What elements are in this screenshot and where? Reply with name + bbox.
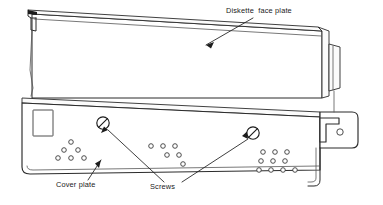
label-diskette-face-plate: Diskette face plate (226, 7, 292, 14)
hole (261, 150, 266, 155)
hole (173, 144, 178, 149)
hole (149, 144, 154, 149)
hole (285, 150, 290, 155)
hole (269, 168, 274, 173)
hole (82, 156, 87, 161)
diskette-face-plate (28, 10, 340, 98)
hole (165, 153, 170, 158)
screw-right (247, 127, 259, 139)
diagram-canvas: Diskette face plate Cover plate Screws (0, 0, 383, 205)
hole (293, 168, 298, 173)
hole (177, 153, 182, 158)
screw-left (97, 117, 109, 129)
right-bracket-hole (337, 129, 343, 135)
hole (69, 156, 74, 161)
hole (69, 140, 74, 145)
hole (273, 150, 278, 155)
hole (283, 159, 288, 164)
technical-line-drawing (0, 0, 383, 205)
cover-plate-label-window (33, 110, 53, 136)
face-plate-right-tab (329, 44, 340, 91)
hole (259, 159, 264, 164)
label-cover-plate: Cover plate (56, 181, 95, 188)
hole (271, 159, 276, 164)
hole (62, 148, 67, 153)
label-screws: Screws (150, 183, 175, 190)
hole (257, 168, 262, 173)
hole (56, 156, 61, 161)
cover-plate (22, 98, 320, 174)
hole (161, 144, 166, 149)
hole (181, 162, 186, 167)
hole (281, 168, 286, 173)
hole (76, 148, 81, 153)
